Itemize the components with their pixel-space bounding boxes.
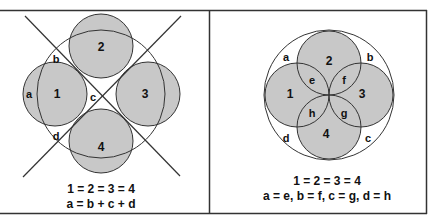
left-label-a: a xyxy=(26,88,33,100)
right-label-4: 4 xyxy=(323,127,330,141)
right-label-h: h xyxy=(309,107,316,119)
left-equation-2: a = b + c + d xyxy=(66,197,135,211)
left-equation-1: 1 = 2 = 3 = 4 xyxy=(67,182,135,196)
left-label-b: b xyxy=(53,53,60,65)
left-label-4: 4 xyxy=(98,140,105,154)
right-panel: 2 1 3 4 e f g h a b c d 1 = 2 = 3 = 4 a … xyxy=(263,30,394,203)
right-equation-1: 1 = 2 = 3 = 4 xyxy=(293,174,361,188)
left-label-c: c xyxy=(90,91,96,103)
right-label-b: b xyxy=(367,51,374,63)
left-label-d: d xyxy=(53,130,60,142)
right-label-g: g xyxy=(341,107,348,119)
left-panel: 2 1 3 4 a b c d 1 = 2 = 3 = 4 a = b + c … xyxy=(23,14,181,211)
right-label-1: 1 xyxy=(287,87,294,101)
left-label-3: 3 xyxy=(142,87,149,101)
right-label-2: 2 xyxy=(326,54,333,68)
right-label-a: a xyxy=(283,51,290,63)
right-label-e: e xyxy=(309,74,315,86)
right-label-f: f xyxy=(342,74,346,86)
right-equation-2: a = e, b = f, c = g, d = h xyxy=(263,189,391,203)
left-label-1: 1 xyxy=(54,87,61,101)
left-label-2: 2 xyxy=(98,40,105,54)
right-label-d: d xyxy=(283,132,290,144)
right-label-c: c xyxy=(365,132,371,144)
right-label-3: 3 xyxy=(359,87,366,101)
diagram-canvas: 2 1 3 4 a b c d 1 = 2 = 3 = 4 a = b + c … xyxy=(0,0,435,221)
